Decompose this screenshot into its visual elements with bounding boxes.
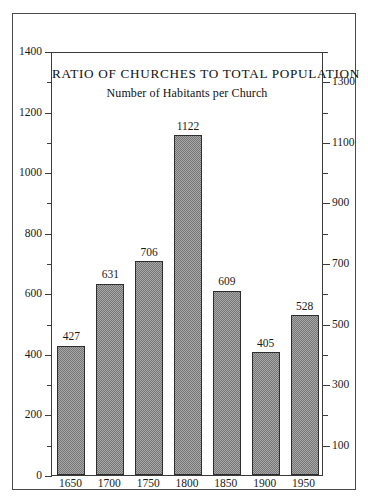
bar-group: 427 xyxy=(57,346,85,475)
y-axis-right-tick-major xyxy=(323,143,330,144)
y-axis-left-tick-minor xyxy=(47,143,52,144)
bar-value-label: 706 xyxy=(124,247,174,259)
y-axis-right-tick-major xyxy=(323,264,330,265)
bar-value-label: 1122 xyxy=(163,121,213,133)
y-axis-left-label: 200 xyxy=(25,409,42,421)
y-axis-right-tick-minor xyxy=(323,173,328,174)
bar-value-label: 631 xyxy=(85,269,135,281)
y-axis-right-tick-major xyxy=(323,446,330,447)
y-axis-left-label: 600 xyxy=(25,288,42,300)
y-axis-right: 10030050070090011001300 xyxy=(323,52,368,476)
bar-group: 528 xyxy=(291,315,319,475)
bar xyxy=(96,284,124,475)
y-axis-left-tick-major xyxy=(45,476,52,477)
bar-group: 706 xyxy=(135,261,163,475)
y-axis-right-label: 900 xyxy=(332,197,349,209)
bar xyxy=(135,261,163,475)
y-axis-left-label: 1200 xyxy=(19,107,42,119)
chart-outer-frame: RATIO OF CHURCHES TO TOTAL POPULATION Nu… xyxy=(12,13,356,490)
y-axis-left-tick-major xyxy=(45,173,52,174)
y-axis-right-label: 700 xyxy=(332,258,349,270)
bar-group: 609 xyxy=(213,291,241,475)
bar-group: 1122 xyxy=(174,135,202,475)
x-axis-category-label: 1950 xyxy=(280,478,328,490)
bar xyxy=(174,135,202,475)
y-axis-left: 0200400600800100012001400 xyxy=(13,52,51,476)
y-axis-left-tick-minor xyxy=(47,264,52,265)
y-axis-right-tick-minor xyxy=(323,52,328,53)
y-axis-left-label: 800 xyxy=(25,228,42,240)
y-axis-right-tick-minor xyxy=(323,294,328,295)
bar-group: 631 xyxy=(96,284,124,475)
y-axis-right-label: 100 xyxy=(332,440,349,452)
y-axis-left-label: 400 xyxy=(25,349,42,361)
y-axis-left-tick-major xyxy=(45,52,52,53)
bar xyxy=(213,291,241,475)
y-axis-left-tick-minor xyxy=(47,446,52,447)
y-axis-right-tick-minor xyxy=(323,113,328,114)
x-axis-categories: 1650170017501800185019001950 xyxy=(51,478,323,498)
y-axis-right-tick-minor xyxy=(323,234,328,235)
bar-group: 405 xyxy=(252,352,280,475)
y-axis-left-tick-major xyxy=(45,294,52,295)
y-axis-left-tick-major xyxy=(45,415,52,416)
bar xyxy=(57,346,85,475)
bars-layer: 4276317061122609405528 xyxy=(52,53,322,475)
y-axis-right-label: 1100 xyxy=(332,137,355,149)
y-axis-left-tick-major xyxy=(45,355,52,356)
bar xyxy=(252,352,280,475)
y-axis-left-tick-major xyxy=(45,234,52,235)
plot-area: RATIO OF CHURCHES TO TOTAL POPULATION Nu… xyxy=(51,52,323,476)
y-axis-right-tick-major xyxy=(323,82,330,83)
y-axis-left-tick-major xyxy=(45,113,52,114)
y-axis-right-tick-major xyxy=(323,385,330,386)
y-axis-right-tick-major xyxy=(323,325,330,326)
bar xyxy=(291,315,319,475)
y-axis-left-label: 1000 xyxy=(19,167,42,179)
bar-value-label: 609 xyxy=(202,276,252,288)
bar-value-label: 427 xyxy=(46,331,96,343)
y-axis-right-label: 500 xyxy=(332,319,349,331)
y-axis-left-tick-minor xyxy=(47,325,52,326)
y-axis-left-tick-minor xyxy=(47,203,52,204)
y-axis-right-tick-major xyxy=(323,203,330,204)
y-axis-left-tick-minor xyxy=(47,385,52,386)
y-axis-right-tick-minor xyxy=(323,355,328,356)
y-axis-right-label: 300 xyxy=(332,379,349,391)
bar-value-label: 405 xyxy=(241,338,291,350)
y-axis-right-tick-minor xyxy=(323,415,328,416)
y-axis-right-label: 1300 xyxy=(332,76,355,88)
y-axis-left-label: 1400 xyxy=(19,46,42,58)
y-axis-left-label: 0 xyxy=(36,470,42,482)
y-axis-left-tick-minor xyxy=(47,82,52,83)
